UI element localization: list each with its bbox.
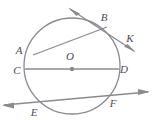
center-point-dot — [70, 67, 74, 71]
secant-arrowhead-left — [2, 103, 14, 109]
tangent-arrowhead-upper — [68, 8, 80, 17]
point-label-F: F — [109, 97, 117, 109]
point-label-O: O — [66, 50, 74, 62]
secant-arrowhead-right — [138, 89, 150, 95]
point-label-K: K — [125, 32, 134, 44]
geometry-canvas: A B C D E F K O — [0, 0, 153, 124]
point-label-B: B — [101, 11, 108, 23]
point-label-C: C — [13, 64, 21, 76]
tangent-arrowhead-lower — [124, 44, 136, 53]
geometry-diagram: A B C D E F K O — [0, 0, 153, 124]
point-label-E: E — [30, 106, 38, 118]
secant-line-EF — [4, 92, 148, 105]
point-label-A: A — [15, 44, 23, 56]
point-label-D: D — [119, 63, 128, 75]
